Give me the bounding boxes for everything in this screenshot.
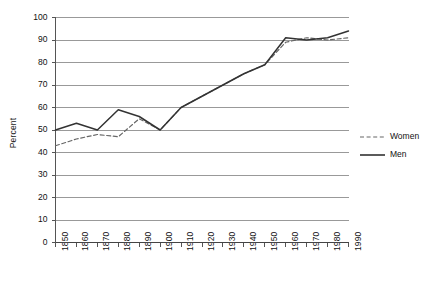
plot-area <box>0 0 435 302</box>
line-chart: Percent 0102030405060708090100 185018601… <box>0 0 435 302</box>
series-line-men <box>56 31 349 130</box>
legend-label-women: Women <box>390 131 419 141</box>
legend-label-men: Men <box>390 149 407 159</box>
gridlines <box>56 18 349 221</box>
data-series-layer <box>56 31 349 146</box>
legend <box>360 137 385 155</box>
